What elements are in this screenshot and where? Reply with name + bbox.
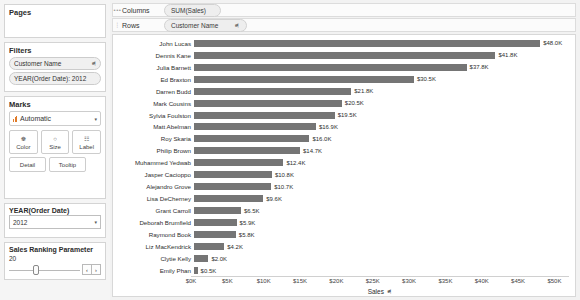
- bar-value-label: $10.7K: [274, 184, 293, 190]
- sort-icon[interactable]: ⚑: [234, 22, 239, 29]
- bar-category-label[interactable]: Dennis Kane: [113, 52, 194, 59]
- bar-value-label: $48.0K: [543, 40, 562, 46]
- bar-category-label[interactable]: Darren Budd: [113, 88, 194, 95]
- drag-handle-icon[interactable]: ⋮: [113, 22, 122, 28]
- x-axis-tick: $25K: [366, 278, 380, 284]
- bar-category-label[interactable]: Raymond Book: [113, 231, 194, 238]
- filter-label: YEAR(Order Date): 2012: [14, 75, 86, 82]
- filter-pill-customer-name[interactable]: Customer Name ⚑: [9, 57, 101, 70]
- bar[interactable]: [194, 76, 414, 83]
- bar-category-label[interactable]: Mark Cousins: [113, 100, 194, 107]
- bar-category-label[interactable]: Sylvia Foulston: [113, 112, 194, 119]
- drag-handle-icon[interactable]: •••: [113, 7, 122, 13]
- bar[interactable]: [194, 231, 236, 238]
- bar[interactable]: [194, 112, 335, 119]
- stepper-next-button[interactable]: ›: [91, 264, 101, 275]
- year-filter-dropdown[interactable]: 2012 ▾: [9, 215, 101, 229]
- bar[interactable]: [194, 52, 495, 59]
- bar-category-label[interactable]: Jasper Cacioppo: [113, 171, 194, 178]
- bar-row: Raymond Book$5.8K: [113, 230, 569, 240]
- rows-shelf[interactable]: ⋮ Rows Customer Name ⚑: [112, 18, 576, 32]
- bar[interactable]: [194, 219, 237, 226]
- rows-shelf-dropzone[interactable]: Customer Name ⚑: [164, 19, 575, 31]
- bar[interactable]: [194, 207, 241, 214]
- parameter-slider[interactable]: [9, 265, 80, 274]
- pages-title: Pages: [5, 5, 105, 19]
- viz-area: ••• Columns SUM(Sales) ⋮ Rows Customer N…: [110, 0, 580, 300]
- parameter-slider-row: ‹ ›: [5, 264, 105, 279]
- bar-value-label: $4.2K: [227, 244, 243, 250]
- bar-track: $48.0K: [194, 38, 569, 48]
- marks-detail-button[interactable]: Detail: [9, 157, 46, 172]
- parameter-stepper: ‹ ›: [83, 264, 101, 275]
- pill-sum-sales[interactable]: SUM(Sales): [164, 4, 221, 17]
- bar[interactable]: [194, 88, 351, 95]
- filter-icon[interactable]: ⚑: [91, 60, 96, 67]
- slider-thumb[interactable]: [33, 265, 39, 275]
- marks-label-button[interactable]: ☷ Label: [72, 130, 101, 154]
- bar[interactable]: [194, 183, 271, 190]
- bar-category-label[interactable]: Grant Carroll: [113, 207, 194, 214]
- bar-value-label: $14.7K: [303, 148, 322, 154]
- bar-category-label[interactable]: Philip Brown: [113, 147, 194, 154]
- bar-value-label: $12.4K: [286, 160, 305, 166]
- bar-row: Clytie Kelly$2.0K: [113, 254, 569, 264]
- marks-color-button[interactable]: ☸ Color: [9, 130, 38, 154]
- bar-track: $9.6K: [194, 194, 569, 204]
- columns-shelf-label: Columns: [122, 7, 164, 14]
- bar-category-label[interactable]: Ed Braxton: [113, 76, 194, 83]
- bar-category-label[interactable]: Matt Abelman: [113, 123, 194, 130]
- bar-category-label[interactable]: Julia Barnett: [113, 64, 194, 71]
- bar[interactable]: [194, 64, 467, 71]
- shelf-container: ••• Columns SUM(Sales) ⋮ Rows Customer N…: [112, 3, 576, 32]
- bar-category-label[interactable]: John Lucas: [113, 40, 194, 47]
- x-axis-tick: $0K: [186, 278, 197, 284]
- bar-category-label[interactable]: Clytie Kelly: [113, 255, 194, 262]
- bar-category-label[interactable]: Alejandro Grove: [113, 183, 194, 190]
- bar[interactable]: [194, 171, 272, 178]
- shelves-sidebar: Pages Filters Customer Name ⚑ YEAR(Order…: [0, 0, 110, 300]
- bar-value-label: $16.9K: [319, 124, 338, 130]
- bar[interactable]: [194, 100, 342, 107]
- bar-row: Matt Abelman$16.9K: [113, 122, 569, 132]
- bar[interactable]: [194, 147, 300, 154]
- bar-value-label: $21.8K: [354, 88, 373, 94]
- bar-category-label[interactable]: Muhammed Yedwab: [113, 159, 194, 166]
- bar-category-label[interactable]: Roy Skaria: [113, 135, 194, 142]
- filters-title: Filters: [5, 43, 105, 57]
- mark-type-dropdown[interactable]: Automatic ▾: [9, 111, 101, 126]
- bar-category-label[interactable]: Lisa DeCherney: [113, 195, 194, 202]
- filter-pill-year-order-date[interactable]: YEAR(Order Date): 2012: [9, 72, 101, 85]
- bar-track: $12.4K: [194, 158, 569, 168]
- x-axis-tick: $10K: [257, 278, 271, 284]
- columns-shelf[interactable]: ••• Columns SUM(Sales): [112, 3, 576, 17]
- sort-icon[interactable]: ⚑: [387, 288, 392, 295]
- marks-size-button[interactable]: ○ Size: [41, 130, 70, 154]
- year-filter-value: 2012: [13, 219, 27, 226]
- bar[interactable]: [194, 135, 309, 142]
- pill-customer-name[interactable]: Customer Name ⚑: [164, 19, 247, 32]
- bar-value-label: $20.5K: [345, 100, 364, 106]
- bar-category-label[interactable]: Liz MacKendrick: [113, 243, 194, 250]
- pages-dropzone[interactable]: [5, 19, 105, 23]
- pages-card: Pages: [4, 4, 106, 38]
- bar[interactable]: [194, 40, 540, 47]
- filters-list: Customer Name ⚑ YEAR(Order Date): 2012: [5, 57, 105, 91]
- bar-chart-icon: [13, 116, 17, 122]
- columns-shelf-dropzone[interactable]: SUM(Sales): [164, 4, 575, 16]
- bar-category-label[interactable]: Deborah Brumfield: [113, 219, 194, 226]
- bar[interactable]: [194, 123, 316, 130]
- bar[interactable]: [194, 255, 208, 262]
- bar[interactable]: [194, 159, 283, 166]
- x-axis-tick: $45K: [511, 278, 525, 284]
- bar[interactable]: [194, 243, 224, 250]
- marks-tooltip-button[interactable]: Tooltip: [49, 157, 86, 172]
- bar[interactable]: [194, 195, 263, 202]
- chevron-down-icon[interactable]: ▾: [94, 219, 97, 225]
- bar[interactable]: [194, 267, 198, 274]
- marks-dropzone[interactable]: [9, 172, 101, 194]
- filter-label: Customer Name: [14, 60, 61, 67]
- bar-rows: John Lucas$48.0KDennis Kane$41.8KJulia B…: [113, 37, 569, 276]
- bar-category-label[interactable]: Emily Phan: [113, 267, 194, 274]
- chevron-down-icon[interactable]: ▾: [94, 116, 97, 122]
